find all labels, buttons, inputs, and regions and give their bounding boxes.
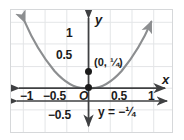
y-tick-label-neg-0-5: −0.5 [48,109,71,121]
focus-point-label: (0, ¼) [94,57,123,68]
y-tick-label-1: 1 [66,27,72,39]
directrix-equation-label: y = −¼ [98,106,135,118]
x-tick-label-neg-1: −1 [20,90,33,102]
y-axis-label: y [95,13,102,26]
x-tick-label-0-5: 0.5 [111,90,127,102]
y-tick-label-0-5: 0.5 [56,49,72,61]
x-tick-label-1: 1 [148,90,154,102]
origin-label: O [79,90,88,102]
parabola-figure: 1 0.5 −0.5 −1 −0.5 0.5 1 O x y (0, ¼) y … [0,0,184,140]
x-axis-label: x [162,73,169,86]
x-tick-label-neg-0-5: −0.5 [43,90,66,102]
focus-point-dot [85,68,92,75]
